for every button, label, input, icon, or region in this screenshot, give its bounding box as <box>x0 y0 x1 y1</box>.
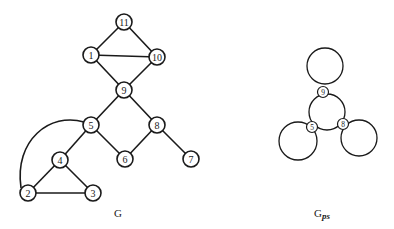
node-4: 4 <box>52 152 68 168</box>
node-3: 3 <box>85 185 101 201</box>
node-9: 9 <box>116 82 132 98</box>
node-10: 10 <box>149 49 165 65</box>
svg-text:1: 1 <box>89 50 94 61</box>
graph-g-edges <box>20 22 191 193</box>
edge-2-5-arc <box>20 120 84 188</box>
node-7: 7 <box>183 151 199 167</box>
svg-text:3: 3 <box>91 188 96 199</box>
gps-node-8: 8 <box>338 119 349 130</box>
svg-text:8: 8 <box>155 120 160 131</box>
svg-text:11: 11 <box>119 17 129 28</box>
svg-text:4: 4 <box>58 155 63 166</box>
svg-text:6: 6 <box>123 154 128 165</box>
svg-text:2: 2 <box>26 188 31 199</box>
node-5: 5 <box>83 117 99 133</box>
node-8: 8 <box>149 117 165 133</box>
node-6: 6 <box>117 151 133 167</box>
graph-gps: 9 5 8 <box>279 48 377 160</box>
gps-caption-main: G <box>314 207 322 219</box>
node-2: 2 <box>20 185 36 201</box>
svg-text:5: 5 <box>310 123 314 132</box>
svg-text:7: 7 <box>189 154 194 165</box>
diagram-canvas: 11 1 10 9 5 8 4 6 <box>0 0 394 229</box>
graph-gps-caption: Gps <box>314 207 330 221</box>
gps-node-9: 9 <box>318 87 329 98</box>
svg-text:9: 9 <box>122 85 127 96</box>
edge-1-10 <box>91 55 157 57</box>
gps-node-5: 5 <box>307 122 318 133</box>
svg-text:5: 5 <box>89 120 94 131</box>
svg-text:10: 10 <box>152 52 162 63</box>
svg-text:9: 9 <box>321 88 325 97</box>
node-1: 1 <box>83 47 99 63</box>
graph-g-caption: G <box>114 207 122 219</box>
node-11: 11 <box>116 14 132 30</box>
gps-caption-subscript: ps <box>321 211 331 221</box>
svg-text:8: 8 <box>341 120 345 129</box>
gps-loop-top <box>307 48 343 84</box>
